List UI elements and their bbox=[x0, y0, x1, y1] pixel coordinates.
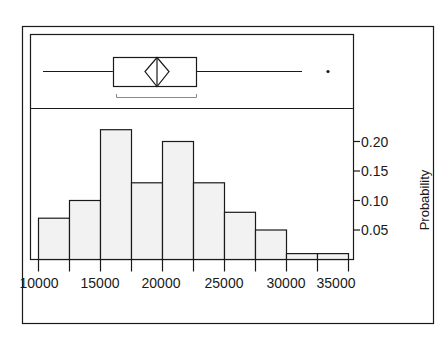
x-tick-label: 20000 bbox=[142, 275, 181, 291]
x-tick-label: 30000 bbox=[267, 275, 306, 291]
histogram-bar bbox=[287, 254, 318, 260]
x-tick-label: 25000 bbox=[205, 275, 244, 291]
y-tick-label: 0.05 bbox=[361, 222, 388, 238]
y-axis-title: Probability bbox=[417, 169, 432, 230]
histogram-bar bbox=[256, 230, 287, 260]
histogram-bar bbox=[163, 142, 194, 260]
histogram-bar bbox=[70, 201, 101, 260]
iqr-box bbox=[114, 58, 197, 87]
x-tick-label: 15000 bbox=[81, 275, 120, 291]
y-tick-label: 0.10 bbox=[361, 193, 388, 209]
outlier-point bbox=[326, 70, 329, 73]
histogram-bar bbox=[318, 254, 349, 260]
histogram-bar bbox=[39, 218, 70, 259]
y-tick-label: 0.20 bbox=[361, 134, 388, 150]
histogram-bar bbox=[101, 130, 132, 260]
histogram-bar bbox=[194, 183, 225, 260]
histogram-bar bbox=[132, 183, 163, 260]
histogram-chart: 100001500020000250003000035000 0.050.100… bbox=[0, 0, 448, 338]
x-tick-label: 35000 bbox=[317, 275, 356, 291]
y-tick-label: 0.15 bbox=[361, 163, 388, 179]
x-tick-label: 10000 bbox=[20, 275, 59, 291]
histogram-bar bbox=[225, 212, 256, 259]
